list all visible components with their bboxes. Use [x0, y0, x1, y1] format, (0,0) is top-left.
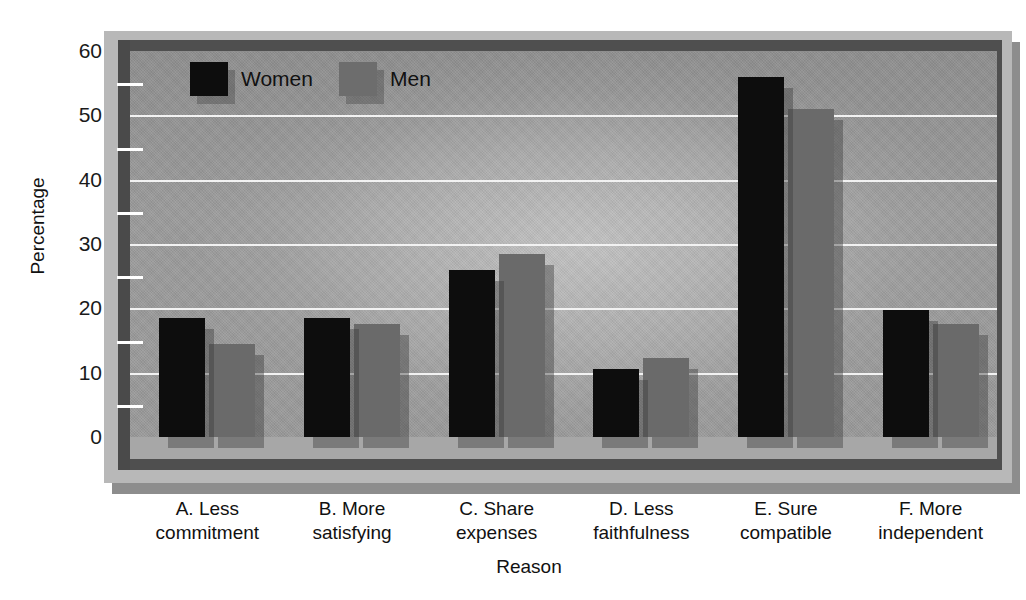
- bar-body: [209, 344, 255, 437]
- bar-body: [499, 254, 545, 437]
- category-label-line: independent: [843, 521, 1019, 545]
- bar-women-f[interactable]: [883, 310, 929, 437]
- bar-group: [159, 51, 255, 437]
- legend-swatch-women: [190, 62, 228, 96]
- chart-figure: 0102030405060 Percentage A. Lesscommitme…: [0, 0, 1026, 600]
- legend-swatch-men: [339, 62, 377, 96]
- bar-group: [883, 51, 979, 437]
- y-tick-label: 40: [44, 169, 102, 190]
- bar-group: [449, 51, 545, 437]
- bar-body: [643, 358, 689, 437]
- x-axis-category-labels: A. LesscommitmentB. MoresatisfyingC. Sha…: [129, 497, 997, 557]
- y-tick-label: 10: [44, 362, 102, 383]
- bar-group: [738, 51, 834, 437]
- bars-layer: [129, 51, 997, 437]
- legend-swatch-body: [339, 62, 377, 96]
- legend-swatch-body: [190, 62, 228, 96]
- chart-legend: WomenMen: [190, 62, 431, 96]
- bar-women-a[interactable]: [159, 318, 205, 437]
- bar-women-c[interactable]: [449, 270, 495, 437]
- bar-women-e[interactable]: [738, 77, 784, 437]
- y-tick-label: 30: [44, 233, 102, 254]
- bar-body: [593, 369, 639, 437]
- x-axis-title-text: Reason: [496, 556, 562, 578]
- bar-men-d[interactable]: [643, 358, 689, 437]
- legend-item-women[interactable]: Women: [190, 62, 313, 96]
- bar-body: [304, 318, 350, 437]
- bar-body: [883, 310, 929, 437]
- y-tick-label: 20: [44, 297, 102, 318]
- x-axis-title: Reason: [0, 556, 1026, 578]
- bar-body: [449, 270, 495, 437]
- bar-body: [788, 109, 834, 437]
- bar-men-c[interactable]: [499, 254, 545, 437]
- bar-group: [593, 51, 689, 437]
- legend-label-women: Women: [241, 67, 313, 91]
- bar-body: [354, 324, 400, 437]
- bar-men-b[interactable]: [354, 324, 400, 437]
- category-label-line: F. More: [843, 497, 1019, 521]
- bar-men-a[interactable]: [209, 344, 255, 437]
- bar-body: [738, 77, 784, 437]
- bar-group: [304, 51, 400, 437]
- y-tick-label: 0: [44, 426, 102, 447]
- legend-item-men[interactable]: Men: [339, 62, 431, 96]
- y-axis-title: Percentage: [27, 146, 49, 306]
- bar-body: [933, 324, 979, 437]
- bar-men-f[interactable]: [933, 324, 979, 437]
- legend-label-men: Men: [390, 67, 431, 91]
- y-tick-label: 50: [44, 104, 102, 125]
- bar-women-d[interactable]: [593, 369, 639, 437]
- y-tick-label: 60: [44, 40, 102, 61]
- bar-women-b[interactable]: [304, 318, 350, 437]
- bar-body: [159, 318, 205, 437]
- category-label-f: F. Moreindependent: [843, 497, 1019, 546]
- bar-men-e[interactable]: [788, 109, 834, 437]
